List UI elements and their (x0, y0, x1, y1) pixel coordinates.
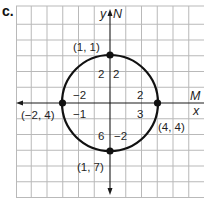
offset-label-left-lower: −1 (73, 108, 86, 120)
offset-label-left-upper: −2 (73, 89, 86, 101)
y-axis (108, 9, 113, 195)
offset-label-right-lower: 3 (137, 108, 143, 120)
x-axis-alt-label: M (190, 89, 201, 103)
point-left-label: (−2, 4) (21, 109, 55, 121)
offset-label-right-upper: 2 (137, 89, 143, 101)
offset-label-bottom-right: −2 (114, 130, 127, 142)
point-bottom (106, 147, 113, 154)
point-top (106, 51, 113, 58)
y-axis-label: y (99, 7, 107, 21)
point-top-label: (1, 1) (73, 41, 100, 53)
y-axis-alt-label: N (113, 7, 123, 21)
arrow-down-icon (108, 188, 113, 195)
arrow-left-icon (16, 101, 23, 106)
offset-label-top-left: 2 (98, 68, 104, 80)
point-left (59, 99, 66, 106)
x-axis-label: x (192, 104, 200, 118)
offset-label-bottom-left: 6 (98, 130, 104, 142)
point-right-label: (4, 4) (158, 121, 185, 133)
coordinate-figure: c. y N M x (1, 1) (−2, 4) (4, 4) (1, 7) … (0, 0, 204, 198)
point-bottom-label: (1, 7) (77, 161, 104, 173)
arrow-up-icon (108, 9, 113, 16)
part-label: c. (2, 3, 14, 19)
offset-label-top-right: 2 (113, 68, 119, 80)
point-right (154, 99, 161, 106)
